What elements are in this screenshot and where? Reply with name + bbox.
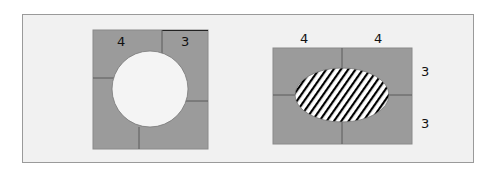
left-square-figure: 4 3 — [93, 30, 208, 149]
right-label-right-lower: 3 — [421, 116, 429, 131]
right-label-top-right: 4 — [374, 31, 382, 46]
right-label-top-left: 4 — [300, 31, 308, 46]
diagram-canvas: 4 3 4 4 3 3 — [0, 0, 500, 173]
right-label-right-upper: 3 — [421, 64, 429, 79]
right-rectangle-figure: 4 4 3 3 — [273, 31, 429, 144]
hatched-ellipse — [295, 68, 389, 122]
circular-hole — [112, 51, 188, 127]
left-label-top-right: 3 — [181, 34, 189, 49]
left-label-top-left: 4 — [117, 34, 125, 49]
